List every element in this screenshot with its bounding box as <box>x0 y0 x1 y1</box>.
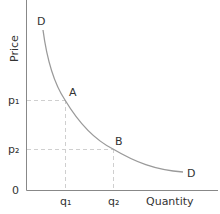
origin-label: 0 <box>12 184 19 197</box>
demand-curve-diagram: D D A B p₁ p₂ 0 q₁ q₂ Quantity Price <box>0 0 220 214</box>
x-tick-q2: q₂ <box>108 195 119 208</box>
x-tick-q1: q₁ <box>60 195 71 208</box>
y-tick-p1: p₁ <box>8 94 19 107</box>
y-axis-label: Price <box>8 35 21 62</box>
guide-lines <box>27 100 114 190</box>
point-label-a: A <box>69 86 77 99</box>
point-label-b: B <box>115 135 123 148</box>
x-axis-label: Quantity <box>146 195 194 208</box>
y-tick-p2: p₂ <box>8 143 19 156</box>
curve-label-end: D <box>187 167 195 180</box>
curve-label-start: D <box>37 15 45 28</box>
